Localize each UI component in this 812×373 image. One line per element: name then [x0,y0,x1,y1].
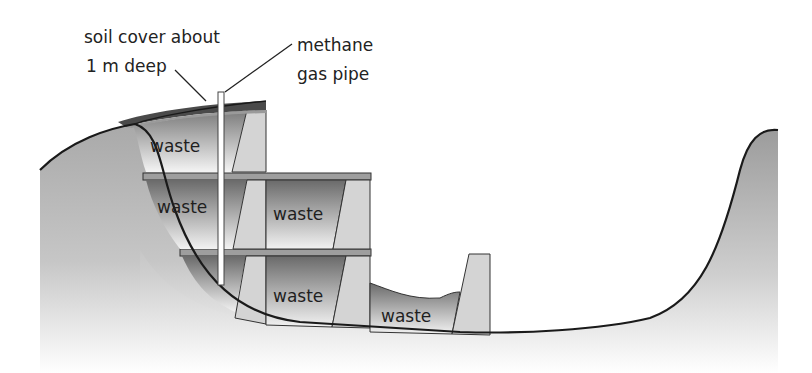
methane-gas-pipe [218,92,224,285]
soil-cover-pointer [175,70,206,101]
methane-label-2: gas pipe [297,64,369,84]
layer-divider-1 [143,173,371,180]
soil-cover-label-2: 1 m deep [86,56,167,76]
waste-label-mid-right: waste [273,204,323,224]
soil-cover-label-1: soil cover about [84,27,220,47]
waste-label-mid-left: waste [157,197,207,217]
methane-pointer [225,44,292,92]
methane-label-1: methane [297,35,373,55]
waste-label-top: waste [150,136,200,156]
landfill-diagram: soil cover about 1 m deep methane gas pi… [0,0,812,373]
layer-divider-2 [180,249,371,256]
waste-label-pit: waste [381,306,431,326]
waste-label-bottom-right: waste [273,286,323,306]
